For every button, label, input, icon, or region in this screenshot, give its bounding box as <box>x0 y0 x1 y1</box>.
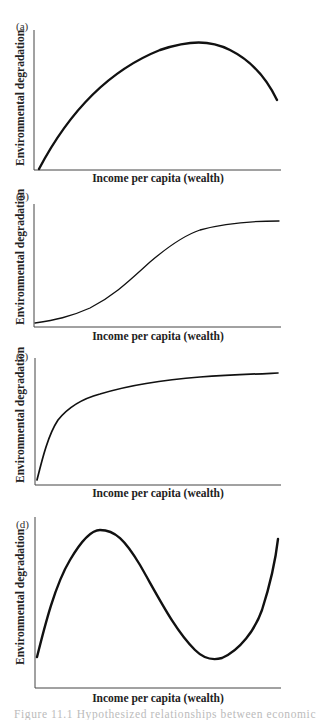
panel-b: (b) Environmental degradation Income per… <box>0 190 292 350</box>
chart-plot-a <box>0 0 292 190</box>
chart-plot-b <box>0 190 292 350</box>
curve-n-shape <box>37 530 278 659</box>
panel-c: (c) Environmental degradation Income per… <box>0 350 292 510</box>
x-axis-label: Income per capita (wealth) <box>34 692 282 704</box>
figure-caption: Figure 11.1 Hypothesized relationships b… <box>14 708 316 720</box>
x-axis-label: Income per capita (wealth) <box>34 172 282 184</box>
x-axis-label: Income per capita (wealth) <box>34 330 282 342</box>
x-axis-label: Income per capita (wealth) <box>34 487 282 499</box>
chart-plot-c <box>0 350 292 510</box>
panel-d: (d) Environmental degradation Income per… <box>0 515 292 715</box>
chart-plot-d <box>0 515 292 715</box>
curve-inverted-u <box>39 43 277 170</box>
curve-s-shape <box>35 221 279 323</box>
curve-saturating <box>37 373 278 480</box>
panel-a: (a) Environmental degradation Income per… <box>0 0 292 190</box>
